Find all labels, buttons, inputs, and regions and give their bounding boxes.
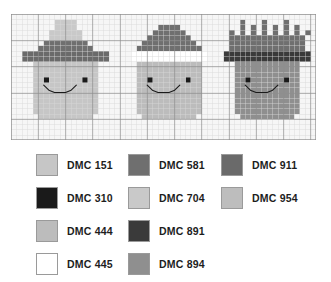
legend-item[interactable]: DMC 445: [36, 247, 136, 280]
color-swatch: [36, 154, 58, 176]
legend-item[interactable]: DMC 704: [128, 181, 228, 214]
legend-item[interactable]: DMC 581: [128, 148, 228, 181]
pattern-chart: [11, 14, 316, 140]
legend-item-label: DMC 911: [252, 159, 297, 171]
legend-item-label: DMC 894: [159, 258, 205, 270]
color-swatch: [128, 154, 150, 176]
legend-item-label: DMC 704: [159, 192, 205, 204]
legend-column-1: DMC 151 DMC 310 DMC 444 DMC 445: [36, 148, 136, 280]
color-swatch: [36, 253, 58, 275]
legend-item[interactable]: DMC 894: [128, 247, 228, 280]
color-swatch: [128, 187, 150, 209]
legend-item[interactable]: DMC 891: [128, 214, 228, 247]
legend-item[interactable]: DMC 151: [36, 148, 136, 181]
legend-item-label: DMC 954: [252, 192, 298, 204]
legend-column-3: DMC 911 DMC 954: [221, 148, 321, 214]
color-swatch: [36, 220, 58, 242]
color-swatch: [221, 187, 243, 209]
legend-item-label: DMC 581: [159, 159, 205, 171]
legend-item-label: DMC 445: [67, 258, 113, 270]
legend-item[interactable]: DMC 911: [221, 148, 321, 181]
legend-item-label: DMC 151: [67, 159, 113, 171]
color-swatch: [221, 154, 243, 176]
pattern-grid-canvas: [11, 14, 316, 140]
color-legend: DMC 151 DMC 310 DMC 444 DMC 445 DMC 581 …: [0, 148, 331, 282]
legend-column-2: DMC 581 DMC 704 DMC 891 DMC 894: [128, 148, 228, 280]
legend-item[interactable]: DMC 310: [36, 181, 136, 214]
color-swatch: [36, 187, 58, 209]
legend-item-label: DMC 310: [67, 192, 113, 204]
legend-item[interactable]: DMC 444: [36, 214, 136, 247]
color-swatch: [128, 253, 150, 275]
legend-item-label: DMC 891: [159, 225, 205, 237]
legend-item[interactable]: DMC 954: [221, 181, 321, 214]
color-swatch: [128, 220, 150, 242]
legend-item-label: DMC 444: [67, 225, 113, 237]
